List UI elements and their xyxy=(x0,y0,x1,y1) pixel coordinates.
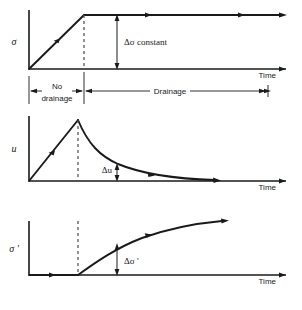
panel3-delta-arrow-up xyxy=(115,243,120,250)
panel1-annotation-label: Δσ constant xyxy=(124,37,167,47)
panel-pore-pressure: u Δu Time xyxy=(12,116,287,192)
panel1-x-axis-arrow xyxy=(279,67,286,72)
panel3-x-axis-arrow xyxy=(279,273,286,278)
panel3-curve-arrow xyxy=(221,218,229,223)
panel1-curve-tick-2 xyxy=(145,13,152,18)
phase-right-label: Drainage xyxy=(154,87,187,96)
panel2-x-axis-label: Time xyxy=(259,183,277,192)
phase-left-arrow-start xyxy=(30,89,37,93)
phase-left-arrow-end xyxy=(76,89,83,93)
consolidation-stress-time-figure: σ Δσ constant Time No draina xyxy=(0,0,302,310)
panel2-curve-arrow xyxy=(213,178,221,183)
phase-left-label-line1: No xyxy=(52,82,63,91)
panel2-annotation-label: Δu xyxy=(102,165,113,175)
panel3-curve-tick-1 xyxy=(49,273,56,278)
panel1-x-axis-label: Time xyxy=(259,71,277,80)
panel2-x-axis-arrow xyxy=(279,179,286,184)
panel1-y-axis-label: σ xyxy=(12,36,18,47)
panel1-curve-tick-3 xyxy=(238,13,245,18)
panel2-loading-ramp xyxy=(29,120,78,181)
panel-effective-stress: σ ' Δσ ' Time xyxy=(9,218,286,286)
panel2-pore-pressure-decay xyxy=(78,120,215,180)
phase-left-label-line2: drainage xyxy=(41,94,73,103)
phase-right-arrow-start xyxy=(85,89,92,93)
panel3-annotation-label: Δσ ' xyxy=(124,256,139,266)
panel3-x-axis-label: Time xyxy=(259,277,277,286)
panel3-effective-stress-curve xyxy=(78,221,222,275)
panel2-y-axis-label: u xyxy=(12,143,17,154)
panel-total-stress: σ Δσ constant Time No draina xyxy=(12,10,287,104)
panel1-curve-arrow xyxy=(279,12,287,17)
figure-canvas: σ Δσ constant Time No draina xyxy=(0,0,302,310)
panel3-y-axis-label: σ ' xyxy=(9,243,19,254)
phase-right-arrow-extra xyxy=(264,89,271,93)
